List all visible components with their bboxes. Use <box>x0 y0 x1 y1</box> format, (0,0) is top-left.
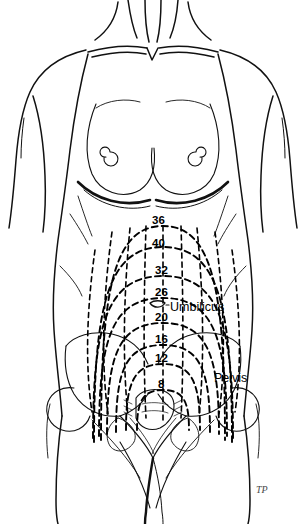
week-label-20: 20 <box>155 311 168 323</box>
anatomical-line-art <box>0 0 306 524</box>
week-label-32: 32 <box>155 264 168 276</box>
umbilicus-label: Umbilicus <box>170 300 224 314</box>
artist-signature: TP <box>256 484 268 495</box>
week-label-8: 8 <box>158 378 165 390</box>
pelvis-label: Pelvis <box>214 371 247 385</box>
week-label-16: 16 <box>155 333 168 345</box>
week-label-12: 12 <box>155 352 168 364</box>
week-label-36: 36 <box>152 214 165 226</box>
umbilicus-marker <box>150 301 165 307</box>
week-label-40: 40 <box>152 237 165 249</box>
week-label-26: 26 <box>155 286 168 298</box>
fundal-height-figure: 812162026323640 UmbilicusPelvis TP <box>0 0 306 524</box>
